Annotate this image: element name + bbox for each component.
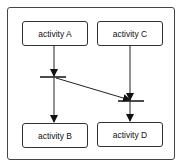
activity-d-node: activity D: [97, 122, 163, 147]
edge-fork-to-join: [56, 78, 130, 100]
activity-c-label: activity C: [113, 29, 147, 39]
activity-d-label: activity D: [113, 130, 147, 140]
activity-b-label: activity B: [38, 131, 72, 141]
activity-a-node: activity A: [22, 21, 88, 46]
activity-c-node: activity C: [97, 21, 163, 46]
activity-b-node: activity B: [22, 123, 88, 148]
activity-a-label: activity A: [38, 29, 72, 39]
